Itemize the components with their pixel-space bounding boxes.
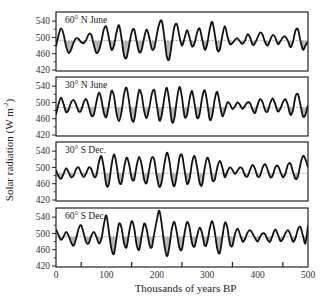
panel-2: 42046050054030° N June bbox=[36, 77, 308, 140]
panel-3: 42046050054030° S Dec. bbox=[36, 142, 308, 205]
x-tick-label: 200 bbox=[150, 270, 165, 280]
panel-label: 60° S Dec. bbox=[65, 211, 106, 221]
y-tick-label: 420 bbox=[36, 65, 51, 75]
y-axis-title: Solar radiation (W m-2) bbox=[2, 99, 15, 201]
panel-4: 42046050054060° S Dec. bbox=[36, 208, 308, 271]
panels-layer: 42046050054060° N June42046050054030° N … bbox=[36, 12, 308, 271]
x-axis: 0100200300400500 bbox=[54, 262, 316, 280]
y-tick-label: 540 bbox=[36, 212, 51, 222]
panel-label: 30° S Dec. bbox=[65, 145, 106, 155]
panel-label: 60° N June bbox=[65, 15, 107, 25]
y-tick-label: 540 bbox=[36, 81, 51, 91]
y-tick-label: 420 bbox=[36, 130, 51, 140]
y-tick-label: 460 bbox=[36, 114, 51, 124]
y-tick-label: 460 bbox=[36, 245, 51, 255]
y-tick-label: 500 bbox=[36, 33, 51, 43]
y-tick-label: 460 bbox=[36, 179, 51, 189]
x-axis-title: Thousands of years BP bbox=[0, 282, 333, 294]
panel-1: 42046050054060° N June bbox=[36, 12, 308, 75]
y-tick-label: 540 bbox=[36, 16, 51, 26]
y-tick-label: 500 bbox=[36, 163, 51, 173]
y-tick-label: 420 bbox=[36, 261, 51, 271]
y-tick-label: 460 bbox=[36, 49, 51, 59]
x-tick-label: 300 bbox=[200, 270, 215, 280]
y-tick-label: 420 bbox=[36, 195, 51, 205]
solar-radiation-chart: 42046050054060° N June42046050054030° N … bbox=[0, 0, 333, 308]
y-tick-label: 500 bbox=[36, 229, 51, 239]
x-tick-label: 500 bbox=[301, 270, 316, 280]
x-tick-label: 100 bbox=[99, 270, 114, 280]
x-tick-label: 400 bbox=[250, 270, 265, 280]
panel-label: 30° N June bbox=[65, 80, 107, 90]
y-tick-label: 540 bbox=[36, 146, 51, 156]
y-tick-label: 500 bbox=[36, 98, 51, 108]
x-tick-label: 0 bbox=[54, 270, 59, 280]
